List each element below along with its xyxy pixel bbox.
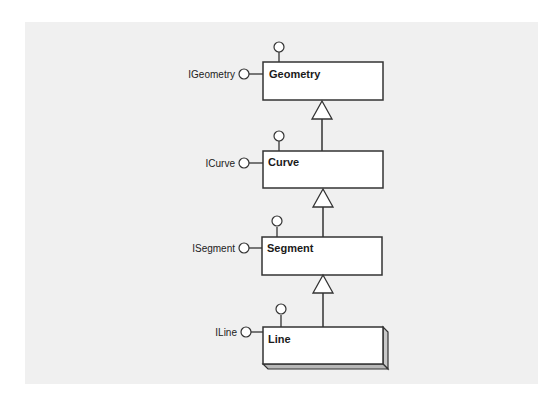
interface-lollipop-icon [239,243,249,253]
class-geometry[interactable]: IGeometry Geometry [188,42,383,100]
interface-label: ICurve [206,158,236,169]
class-line[interactable]: ILine Line [215,304,388,369]
interface-lollipop-icon [241,327,251,337]
class-diagram: IGeometry Geometry ICurve Curve ISegment… [0,0,560,402]
class-name: Geometry [269,68,321,80]
interface-label: ILine [215,327,237,338]
class-name: Line [268,333,291,345]
inheritance-arrow [313,275,333,327]
inheritance-triangle-icon [312,101,332,119]
class-curve[interactable]: ICurve Curve [206,131,383,188]
interface-lollipop-icon [274,42,284,52]
interface-lollipop-icon [272,216,282,226]
interface-lollipop-icon [239,158,249,168]
class-segment[interactable]: ISegment Segment [192,216,382,275]
interface-lollipop-icon [274,131,284,141]
interface-label: ISegment [192,243,235,254]
inheritance-triangle-icon [313,275,333,293]
inheritance-arrow [313,189,333,237]
interface-label: IGeometry [188,69,235,80]
class-name: Curve [268,156,299,168]
interface-lollipop-icon [276,304,286,314]
inheritance-triangle-icon [313,189,333,207]
interface-lollipop-icon [239,69,249,79]
inheritance-arrow [312,101,332,151]
class-name: Segment [267,242,314,254]
